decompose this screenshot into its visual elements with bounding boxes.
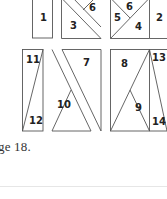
piece-label-5: 5 <box>114 12 121 23</box>
piece-label-13: 13 <box>152 52 166 63</box>
tangram-figure: 1 2 3 4 5 6 6 7 8 9 10 11 12 13 14 <box>0 0 167 140</box>
figure-caption: ge 18. <box>0 139 31 155</box>
piece-label-6-right: 6 <box>126 1 133 12</box>
piece-label-4: 4 <box>135 21 142 32</box>
piece-label-7: 7 <box>83 57 90 68</box>
puzzle-pieces-diagram: 1 2 3 4 5 6 6 7 8 9 10 11 12 13 14 <box>0 0 167 140</box>
horizontal-divider <box>0 186 167 187</box>
piece-label-1: 1 <box>40 12 47 23</box>
piece-label-8: 8 <box>121 58 128 69</box>
piece-label-10: 10 <box>57 99 71 110</box>
piece-label-6-left: 6 <box>89 2 96 13</box>
piece-label-11: 11 <box>26 54 40 65</box>
piece-label-3: 3 <box>70 20 77 31</box>
piece-label-14: 14 <box>152 116 166 127</box>
piece-label-12: 12 <box>29 115 43 126</box>
piece-label-2: 2 <box>156 12 163 23</box>
piece-label-9: 9 <box>135 102 142 113</box>
